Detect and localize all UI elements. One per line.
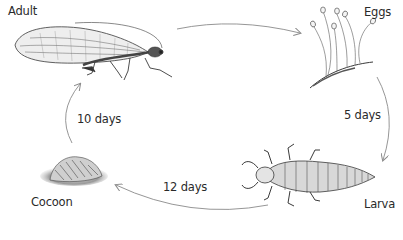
stage-label-larva: Larva [364,197,395,211]
eggs-illustration [310,7,377,88]
stage-label-adult: Adult [8,4,37,18]
larva-illustration [242,144,375,206]
stage-label-cocoon: Cocoon [31,195,73,209]
cocoon-illustration [40,157,108,186]
duration-label-cocoon-to-adult: 10 days [77,112,121,126]
arrow-adult-to-eggs [177,24,300,33]
duration-label-larva-to-cocoon: 12 days [163,180,207,194]
life-cycle-diagram: Adult Eggs Larva Cocoon 5 days 12 days 1… [0,0,403,240]
adult-lacewing-illustration [15,22,172,80]
stage-label-eggs: Eggs [364,5,391,19]
duration-label-eggs-to-larva: 5 days [344,108,381,122]
